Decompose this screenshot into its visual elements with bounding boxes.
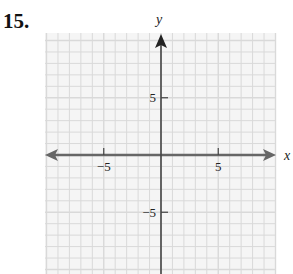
x-tick-label: −5 <box>97 159 111 174</box>
y-tick-label: −5 <box>142 205 156 220</box>
x-axis-label: x <box>283 148 291 163</box>
y-tick-label: 5 <box>150 90 157 105</box>
x-tick-label: 5 <box>215 159 222 174</box>
y-axis-label: y <box>154 12 163 27</box>
coordinate-plane: x y −555−5 <box>0 0 293 274</box>
